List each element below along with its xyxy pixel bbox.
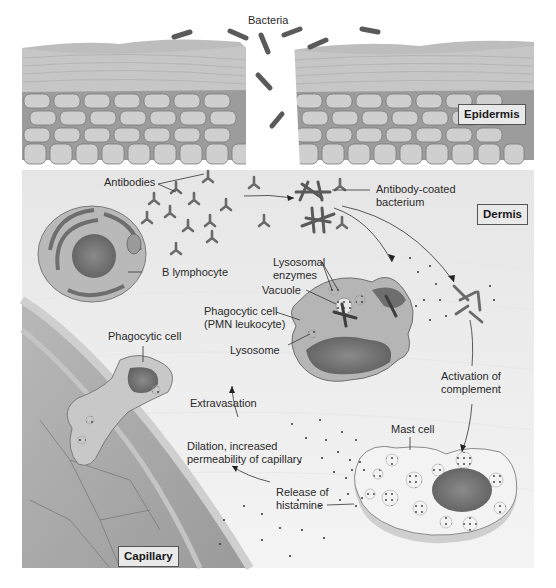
- b-lymphocyte: [38, 206, 146, 302]
- inflammation-diagram: Bacteria Epidermis Dermis Capillary Anti…: [0, 0, 556, 588]
- label-capillary: Capillary: [118, 546, 179, 567]
- label-lysosomal-enzymes: Lysosomal enzymes: [273, 256, 325, 282]
- label-antibody-coated-bacterium: Antibody-coated bacterium: [376, 183, 456, 209]
- label-phagocytic-cell: Phagocytic cell: [108, 330, 181, 343]
- label-dermis: Dermis: [477, 204, 528, 225]
- label-extravasation: Extravasation: [190, 397, 257, 410]
- label-b-lymphocyte: B lymphocyte: [162, 266, 228, 279]
- label-antibodies: Antibodies: [104, 176, 155, 189]
- label-epidermis: Epidermis: [458, 104, 526, 125]
- label-activation-of-complement: Activation of complement: [441, 370, 501, 396]
- label-bacteria: Bacteria: [248, 14, 288, 27]
- label-phagocytic-cell-pmn: Phagocytic cell (PMN leukocyte): [204, 305, 285, 331]
- label-vacuole: Vacuole: [262, 284, 301, 297]
- skin-wound-gap: [246, 40, 300, 170]
- label-lysosome: Lysosome: [230, 344, 280, 357]
- label-release-of-histamine: Release of histamine: [276, 486, 329, 512]
- label-mast-cell: Mast cell: [391, 423, 434, 436]
- label-dilation-permeability: Dilation, increased permeability of capi…: [187, 440, 302, 466]
